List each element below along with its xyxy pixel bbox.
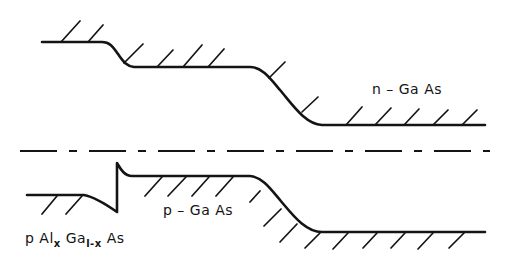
conduction-band-hatching — [61, 21, 477, 125]
p-algaas-label: p Alx Gal-x As — [25, 230, 125, 249]
p-algaas-prefix: p Al — [25, 230, 54, 246]
conduction-band — [42, 21, 485, 125]
valence-band-edge — [27, 163, 485, 232]
band-diagram-figure — [0, 0, 514, 263]
p-gaas-label: p – Ga As — [163, 202, 233, 218]
p-algaas-ga: Ga — [61, 230, 86, 246]
p-algaas-sub-x: x — [54, 238, 61, 249]
n-gaas-label: n – Ga As — [372, 81, 442, 97]
p-algaas-as: As — [102, 230, 125, 246]
p-algaas-sub-1x: l-x — [86, 238, 102, 249]
